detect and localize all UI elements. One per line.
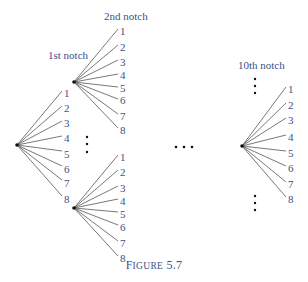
tenth-label-3: 3 <box>288 114 294 126</box>
tenth-label-7: 7 <box>288 178 294 190</box>
root-label-8: 8 <box>64 193 70 205</box>
caption-prefix: F <box>126 258 133 272</box>
tenth-label-1: 1 <box>288 83 294 95</box>
lower-label-6: 6 <box>120 221 126 233</box>
root-label-1: 1 <box>64 87 70 99</box>
upper-node <box>72 80 76 84</box>
lower-label-1: 1 <box>120 151 126 163</box>
upper-label-3: 3 <box>120 56 126 68</box>
header-1st-notch: 1st notch <box>48 49 89 61</box>
upper-label-4: 4 <box>120 69 126 81</box>
upper-label-2: 2 <box>120 41 126 53</box>
figure-caption: FIGURE 5.7 <box>0 258 308 273</box>
lower-label-7: 7 <box>120 237 126 249</box>
root-label-6: 6 <box>64 163 70 175</box>
root-node <box>15 143 19 147</box>
tree-diagram: 2nd notch 1st notch 10th notch 1 2 3 4 5… <box>0 0 308 282</box>
tenth-label-2: 2 <box>288 99 294 111</box>
upper-subtree: 1 2 3 4 5 6 7 8 <box>72 25 126 136</box>
tenth-label-8: 8 <box>288 193 294 205</box>
root-label-3: 3 <box>64 117 70 129</box>
caption-number: 5.7 <box>166 258 182 272</box>
tenth-node <box>240 144 244 148</box>
root-label-5: 5 <box>64 148 70 160</box>
upper-label-5: 5 <box>120 82 126 94</box>
root-label-7: 7 <box>64 177 70 189</box>
upper-label-7: 7 <box>120 110 126 122</box>
tenth-label-4: 4 <box>288 131 294 143</box>
upper-label-6: 6 <box>120 94 126 106</box>
root-subtree: 1 2 3 4 5 6 7 8 <box>15 87 70 205</box>
tenth-subtree: 1 2 3 4 5 6 7 8 <box>240 78 294 211</box>
lower-subtree: 1 2 3 4 5 6 7 8 <box>72 151 126 264</box>
tenth-label-6: 6 <box>288 162 294 174</box>
lower-label-3: 3 <box>120 182 126 194</box>
tenth-label-5: 5 <box>288 147 294 159</box>
header-10th-notch: 10th notch <box>238 59 285 71</box>
root-label-2: 2 <box>64 102 70 114</box>
lower-label-2: 2 <box>120 166 126 178</box>
lower-node <box>72 206 76 210</box>
header-2nd-notch: 2nd notch <box>104 10 148 22</box>
upper-label-1: 1 <box>120 25 126 37</box>
caption-rest: IGURE <box>133 261 164 271</box>
vertical-ellipsis-middle <box>86 136 88 153</box>
root-label-4: 4 <box>64 132 70 144</box>
upper-label-8: 8 <box>120 124 126 136</box>
horizontal-ellipsis <box>175 146 194 149</box>
lower-label-5: 5 <box>120 208 126 220</box>
lower-label-4: 4 <box>120 195 126 207</box>
